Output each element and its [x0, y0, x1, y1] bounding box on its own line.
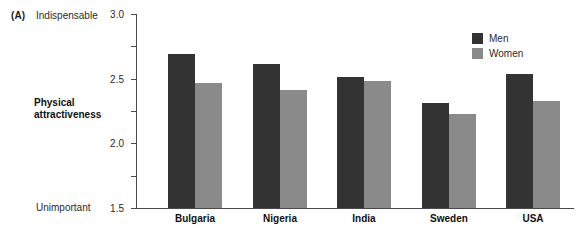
y-axis-title-line1: Physical [34, 97, 122, 109]
bar-group: India [337, 14, 391, 208]
figure-panel-a: (A) Indispensable Unimportant Physical a… [0, 0, 578, 238]
legend-item-women: Women [472, 46, 523, 61]
y-tick-mark: 1.5 [131, 111, 136, 112]
legend: Men Women [472, 31, 523, 61]
y-tick-label: 2.5 [94, 73, 124, 84]
bar-men [422, 103, 449, 208]
bar-men [253, 64, 280, 208]
bar-men [168, 54, 195, 208]
y-tick-label: 1.5 [94, 203, 124, 214]
bar-women [364, 81, 391, 208]
y-axis-title: Physical attractiveness [34, 97, 122, 121]
bar-group: Bulgaria [168, 14, 222, 208]
panel-label: (A) [11, 10, 25, 21]
legend-label-men: Men [489, 33, 508, 44]
y-tick-label: 2.0 [94, 138, 124, 149]
bar-group: Nigeria [253, 14, 307, 208]
x-axis-category-label: Nigeria [263, 213, 297, 224]
y-tick-mark: 2.5 [131, 46, 136, 47]
bar-men [337, 77, 364, 208]
bar-women [280, 90, 307, 208]
bar-women [449, 114, 476, 208]
y-axis-title-line2: attractiveness [34, 109, 122, 121]
scale-anchor-high: Indispensable [36, 10, 98, 21]
scale-anchor-low: Unimportant [36, 202, 90, 213]
legend-swatch-women-icon [472, 48, 483, 59]
x-axis-category-label: India [352, 213, 375, 224]
legend-label-women: Women [489, 48, 523, 59]
y-tick-mark: .5 [131, 176, 136, 177]
x-axis-category-label: USA [522, 213, 543, 224]
y-tick-label: 3.0 [94, 9, 124, 20]
legend-swatch-men-icon [472, 33, 483, 44]
bar-women [533, 101, 560, 208]
y-tick-mark: 3.0 [131, 14, 136, 15]
y-tick-mark: 1.0 [131, 143, 136, 144]
bar-men [506, 74, 533, 209]
y-axis-line [136, 14, 137, 209]
bar-group: Sweden [422, 14, 476, 208]
y-tick-mark: 0 [131, 208, 136, 209]
y-tick-mark: 2.0 [131, 79, 136, 80]
bar-women [195, 83, 222, 208]
x-axis-line [136, 208, 574, 209]
x-axis-category-label: Bulgaria [175, 213, 215, 224]
x-axis-category-label: Sweden [430, 213, 468, 224]
legend-item-men: Men [472, 31, 523, 46]
